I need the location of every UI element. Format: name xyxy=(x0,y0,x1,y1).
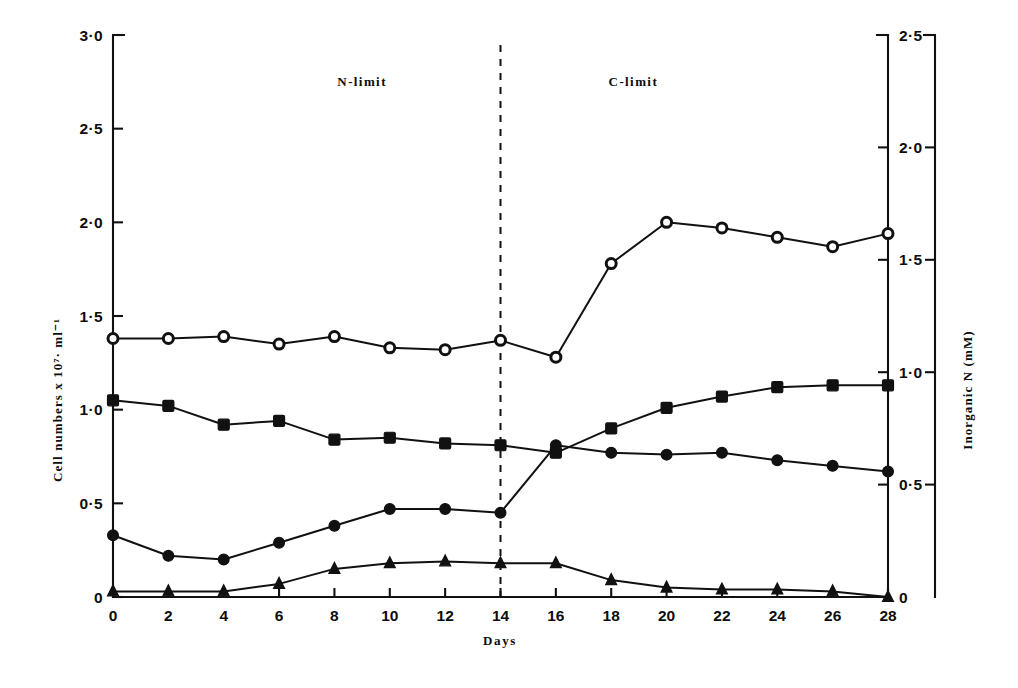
left-tick-label: 2·5 xyxy=(79,120,103,137)
marker-filled-circle xyxy=(661,449,672,460)
phase-label-n-limit: N-limit xyxy=(337,74,387,89)
marker-open-circle xyxy=(329,332,339,342)
marker-filled-circle xyxy=(495,507,506,518)
marker-open-circle xyxy=(385,343,395,353)
marker-filled-circle xyxy=(218,554,229,565)
marker-filled-circle xyxy=(717,447,728,458)
marker-open-circle xyxy=(662,217,672,227)
right-tick-label: 0·5 xyxy=(899,476,923,493)
figure-container: 00·51·01·52·02·53·0 00·51·01·52·02·5 024… xyxy=(0,0,1018,688)
marker-filled-square xyxy=(661,402,672,413)
right-tick-label: 1·5 xyxy=(899,251,923,268)
marker-filled-circle xyxy=(163,550,174,561)
marker-open-circle xyxy=(163,333,173,343)
marker-filled-square xyxy=(108,395,119,406)
x-tick-label: 26 xyxy=(824,607,842,624)
x-tick-label: 24 xyxy=(769,607,787,624)
marker-filled-square xyxy=(827,380,838,391)
right-tick-label: 1·0 xyxy=(899,364,923,381)
marker-filled-square xyxy=(274,415,285,426)
marker-open-circle xyxy=(219,332,229,342)
marker-filled-circle xyxy=(550,440,561,451)
marker-filled-circle xyxy=(384,504,395,515)
x-tick-label: 16 xyxy=(547,607,565,624)
x-axis-tick-labels: 0246810121416182022242628 xyxy=(109,607,897,624)
x-tick-label: 2 xyxy=(164,607,173,624)
line-chart: 00·51·01·52·02·53·0 00·51·01·52·02·5 024… xyxy=(0,0,1018,688)
marker-open-circle xyxy=(883,229,893,239)
x-tick-label: 4 xyxy=(219,607,228,624)
marker-filled-circle xyxy=(772,455,783,466)
marker-open-circle xyxy=(772,232,782,242)
x-tick-label: 12 xyxy=(437,607,454,624)
marker-filled-square xyxy=(883,380,894,391)
y-axis-title-right: Inorganic N (mM) xyxy=(960,330,975,449)
left-tick-label: 2·0 xyxy=(79,214,103,231)
right-tick-label: 2·0 xyxy=(899,139,923,156)
x-tick-label: 22 xyxy=(713,607,730,624)
marker-open-circle xyxy=(828,242,838,252)
marker-open-circle xyxy=(717,223,727,233)
marker-filled-square xyxy=(329,434,340,445)
x-tick-label: 14 xyxy=(492,607,510,624)
left-tick-label: 1·0 xyxy=(79,401,103,418)
marker-filled-circle xyxy=(440,504,451,515)
left-tick-label: 0 xyxy=(94,589,103,606)
marker-filled-square xyxy=(495,440,506,451)
marker-filled-square xyxy=(716,391,727,402)
marker-filled-circle xyxy=(108,530,119,541)
marker-open-circle xyxy=(551,352,561,362)
marker-filled-circle xyxy=(329,520,340,531)
marker-filled-circle xyxy=(606,447,617,458)
marker-filled-square xyxy=(606,423,617,434)
marker-filled-circle xyxy=(274,537,285,548)
phase-label-c-limit: C-limit xyxy=(609,74,659,89)
left-tick-label: 3·0 xyxy=(79,27,103,44)
marker-filled-square xyxy=(440,438,451,449)
marker-open-circle xyxy=(108,333,118,343)
right-tick-label: 0 xyxy=(899,589,908,606)
marker-filled-square xyxy=(218,419,229,430)
marker-filled-square xyxy=(384,432,395,443)
marker-open-circle xyxy=(440,345,450,355)
x-tick-label: 28 xyxy=(879,607,897,624)
y-axis-title-left: Cell numbers x 10⁷· ml⁻¹ xyxy=(50,318,65,482)
x-tick-label: 18 xyxy=(603,607,621,624)
left-tick-label: 1·5 xyxy=(79,308,103,325)
left-tick-label: 0·5 xyxy=(79,495,103,512)
marker-filled-circle xyxy=(827,460,838,471)
marker-open-circle xyxy=(606,259,616,269)
right-tick-label: 2·5 xyxy=(899,27,923,44)
marker-filled-square xyxy=(163,400,174,411)
x-tick-label: 10 xyxy=(381,607,398,624)
marker-open-circle xyxy=(274,339,284,349)
x-tick-label: 0 xyxy=(109,607,118,624)
x-tick-label: 20 xyxy=(658,607,675,624)
marker-filled-square xyxy=(772,382,783,393)
marker-filled-circle xyxy=(883,466,894,477)
x-axis-title: Days xyxy=(483,633,517,648)
x-tick-label: 6 xyxy=(275,607,284,624)
x-tick-label: 8 xyxy=(330,607,339,624)
marker-open-circle xyxy=(496,335,506,345)
